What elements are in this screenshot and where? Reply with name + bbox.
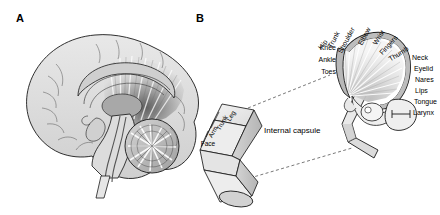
figure-svg: Leg Trunk Arm Face Internal capsule: [0, 0, 440, 215]
brainstem-outline-inset: [385, 99, 416, 130]
figure-root: A B: [0, 0, 440, 215]
homunculus-label-knee: Knee: [320, 44, 336, 51]
projection-line-upper: [243, 75, 330, 110]
block-segment-label-face: Face: [201, 140, 216, 147]
homunculus-label-neck: Neck: [412, 54, 428, 61]
homunculus-label-larynx: Larynx: [413, 109, 435, 117]
capsule-limb-posterior: [348, 138, 378, 158]
homunculus-label-toes: Toes: [321, 68, 336, 75]
homunculus-label-ankle: Ankle: [318, 56, 336, 63]
panel-a-brain: [27, 35, 199, 198]
internal-capsule-block: Leg Trunk Arm Face: [200, 104, 262, 209]
spinal-cord: [96, 176, 110, 198]
panel-b-diagram: Leg Trunk Arm Face Internal capsule: [200, 25, 437, 209]
homunculus-label-tongue: Tongue: [414, 98, 437, 106]
homunculus-label-lips: Lips: [415, 87, 428, 95]
homunculus-label-eyelid: Eyelid: [414, 65, 433, 73]
projection-line-lower: [250, 148, 352, 178]
homunculus-label-nares: Nares: [415, 76, 434, 83]
homunculus-eye: [365, 107, 371, 113]
internal-capsule-label: Internal capsule: [264, 126, 321, 135]
homunculus-head: [361, 103, 383, 121]
thalamus: [102, 94, 142, 118]
cerebellar-folia: [131, 125, 173, 167]
